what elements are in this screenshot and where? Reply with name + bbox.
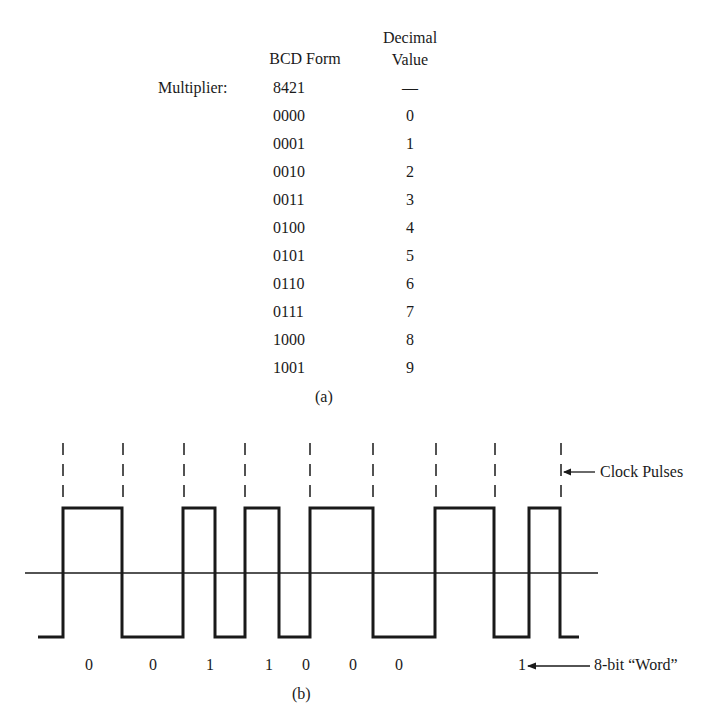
bit-label: 0: [296, 656, 316, 674]
waveform-diagram: [0, 0, 724, 727]
bit-label: 1: [512, 656, 532, 674]
clock-pulse-lines: [63, 443, 561, 504]
clock-pulses-label: Clock Pulses: [600, 463, 683, 481]
caption-b: (b): [292, 685, 311, 703]
word-label: 8-bit “Word”: [594, 656, 678, 674]
word-arrow-icon: [527, 663, 590, 670]
bit-label: 0: [79, 656, 99, 674]
bit-label: 1: [200, 656, 220, 674]
bit-label: 0: [143, 656, 163, 674]
clock-arrow-icon: [563, 469, 595, 476]
bit-label: 0: [343, 656, 363, 674]
bit-label: 1: [259, 656, 279, 674]
bit-label: 0: [389, 656, 409, 674]
